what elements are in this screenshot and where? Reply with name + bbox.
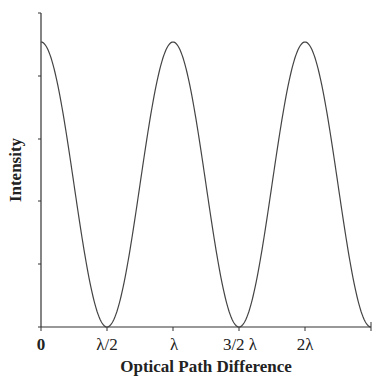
x-tick-label-two-lambda: 2λ [297, 335, 315, 354]
x-tick-label-half-lambda: λ/2 [96, 335, 117, 354]
x-axis-title: Optical Path Difference [120, 357, 292, 376]
x-tick-label-three-half-lambda: 3/2 λ [223, 335, 258, 354]
intensity-curve [41, 42, 371, 327]
y-axis-title: Intensity [6, 137, 25, 202]
interference-chart: 0 λ/2 λ 3/2 λ 2λ Optical Path Difference… [0, 0, 381, 386]
x-tick-label-0: 0 [37, 335, 46, 354]
x-tick-label-lambda: λ [170, 335, 179, 354]
